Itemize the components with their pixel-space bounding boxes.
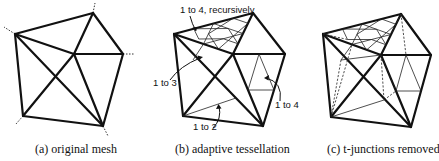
mesh-edges <box>15 13 123 126</box>
one-to-four-split <box>396 55 421 91</box>
panel-a-original-mesh: (a) original mesh <box>4 3 134 156</box>
one-to-four-split <box>248 54 274 90</box>
panel-b-adaptive-tessellation: 1 to 4, recursively 1 to 3 1 to 4 1 to 2… <box>153 4 299 156</box>
caption-b: (b) adaptive tessellation <box>175 142 290 156</box>
caption-c: (c) t-junctions removed <box>327 142 439 156</box>
caption-a: (a) original mesh <box>35 142 117 156</box>
label-1to4-recursive: 1 to 4, recursively <box>180 4 255 15</box>
recursive-subdivision <box>343 19 397 50</box>
figure-canvas: (a) original mesh <box>0 0 439 161</box>
mesh-edges <box>323 14 431 127</box>
label-1to3: 1 to 3 <box>153 77 177 88</box>
panel-c-t-junctions-removed: (c) t-junctions removed <box>323 14 439 156</box>
label-1to4: 1 to 4 <box>275 99 299 110</box>
label-1to2: 1 to 2 <box>193 121 217 132</box>
